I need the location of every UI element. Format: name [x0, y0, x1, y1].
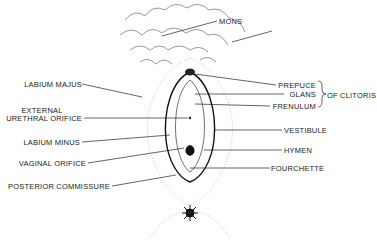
- urethral-orifice: [189, 117, 191, 119]
- mons-hair-texture: [120, 4, 245, 64]
- label-mons: MONS: [219, 17, 242, 26]
- label-prepuce: PREPUCE: [270, 81, 316, 90]
- anus-shape: [182, 205, 198, 221]
- label-urethral-orifice: URETHRAL ORIFICE: [2, 114, 82, 123]
- label-labium-majus: LABIUM MAJUS: [12, 80, 82, 89]
- label-vaginal-orifice: VAGINAL ORIFICE: [10, 159, 86, 168]
- label-posterior-commissure: POSTERIOR COMMISSURE: [6, 182, 110, 191]
- label-frenulum: FRENULUM: [262, 102, 316, 111]
- label-of-clitoris: OF CLITORIS: [327, 91, 376, 100]
- label-glans: GLANS: [270, 90, 316, 99]
- label-labium-minus: LABIUM MINUS: [10, 138, 80, 147]
- label-hymen: HYMEN: [284, 146, 312, 155]
- label-vestibule: VESTIBULE: [284, 126, 327, 135]
- vaginal-orifice-shape: [186, 145, 195, 156]
- vestibule-outline: [165, 72, 214, 182]
- label-fourchette: FOURCHETTE: [271, 164, 324, 173]
- clitoris-glans: [185, 69, 195, 76]
